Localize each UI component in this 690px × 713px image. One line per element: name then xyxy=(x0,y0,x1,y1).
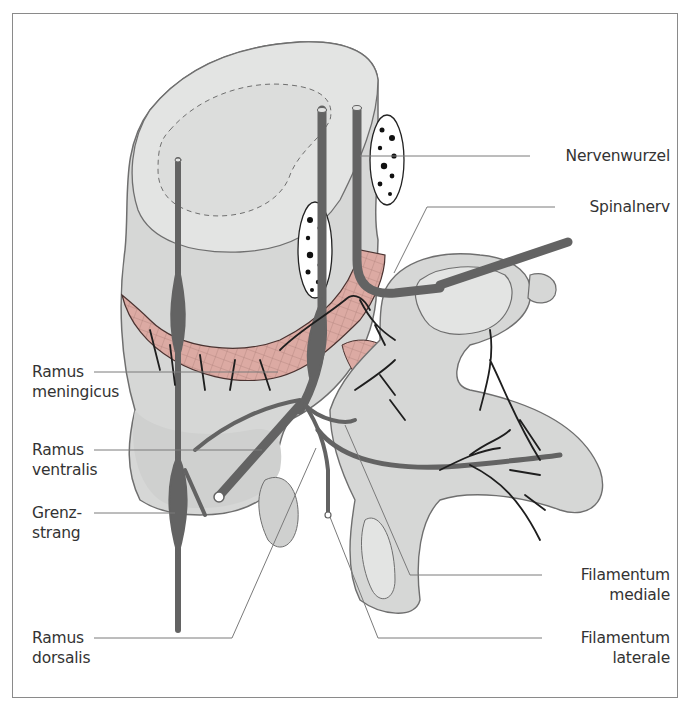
label-grenzstrang: Grenz- strang xyxy=(32,503,82,543)
label-filamentum-mediale: Filamentum mediale xyxy=(581,565,670,605)
label-nervenwurzel: Nervenwurzel xyxy=(566,146,671,166)
label-ramus-dorsalis: Ramus dorsalis xyxy=(32,628,90,668)
label-ramus-ventralis: Ramus ventralis xyxy=(32,440,97,480)
ramus-dorsalis-nerve xyxy=(305,405,328,512)
label-spinalnerv: Spinalnerv xyxy=(589,197,670,217)
label-filamentum-laterale: Filamentum laterale xyxy=(581,628,670,668)
bone-cross-section-upper xyxy=(370,115,404,205)
vertebra-illustration xyxy=(0,0,690,713)
label-ramus-meningicus: Ramus meningicus xyxy=(32,362,119,402)
bone-cross-section-lower xyxy=(298,202,332,298)
